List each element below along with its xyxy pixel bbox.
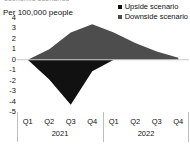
y-tick-label: -4 — [9, 98, 16, 106]
y-tick-label: -3 — [9, 87, 16, 95]
plot-svg — [17, 18, 189, 112]
x-axis-year-label: 2022 — [138, 129, 155, 139]
plot-area — [17, 18, 189, 112]
y-tick-label: 4 — [12, 14, 16, 22]
y-tick-label: -1 — [9, 66, 16, 74]
x-axis: Q1Q2Q3Q4Q1Q2Q3Q4 20212022 — [17, 112, 189, 145]
plot-wrapper: 43210-1-2-3-4-5 — [0, 18, 190, 112]
x-tick-label-quarter: Q4 — [87, 117, 97, 127]
area-downside-scenario — [28, 24, 179, 60]
x-tick-label-quarter: Q3 — [152, 117, 162, 127]
x-axis-group-separator — [17, 112, 18, 142]
x-tick-label-quarter: Q3 — [66, 117, 76, 127]
x-axis-group-separator — [103, 112, 104, 142]
x-axis-year-label: 2021 — [52, 129, 69, 139]
x-tick-label-quarter: Q2 — [130, 117, 140, 127]
y-tick-label: 2 — [12, 35, 16, 43]
legend-item-upside: Upside scenario — [118, 2, 188, 11]
x-tick-label-quarter: Q1 — [109, 117, 119, 127]
y-tick-label: 0 — [12, 56, 16, 64]
scenario-area-chart: economic scenarios Per 100,000 people Up… — [0, 0, 190, 145]
y-axis-ticks: 43210-1-2-3-4-5 — [0, 18, 17, 112]
y-tick-label: -5 — [9, 108, 16, 116]
area-upside-scenario — [28, 60, 179, 105]
legend-label-upside: Upside scenario — [125, 2, 179, 11]
x-tick-label-quarter: Q1 — [23, 117, 33, 127]
x-tick-label-quarter: Q4 — [173, 117, 183, 127]
y-tick-label: -2 — [9, 77, 16, 85]
clipped-heading: economic scenarios — [4, 0, 69, 2]
x-tick-label-quarter: Q2 — [44, 117, 54, 127]
y-tick-label: 3 — [12, 25, 16, 33]
y-tick-label: 1 — [12, 46, 16, 54]
square-marker-icon — [118, 5, 122, 9]
x-axis-group-separator — [188, 112, 189, 142]
